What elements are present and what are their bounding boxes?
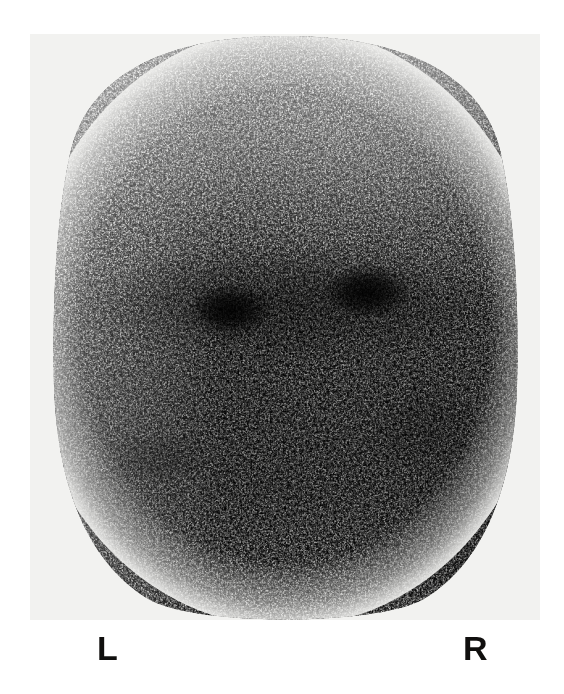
edge-vignette [30,34,540,620]
orientation-marker-left: L [97,631,118,665]
scan-body-region [30,34,540,620]
scintigram-figure: L R [0,0,564,694]
scan-field-graphic [30,34,540,620]
orientation-marker-right: R [463,631,488,665]
scan-film-field [30,34,540,620]
